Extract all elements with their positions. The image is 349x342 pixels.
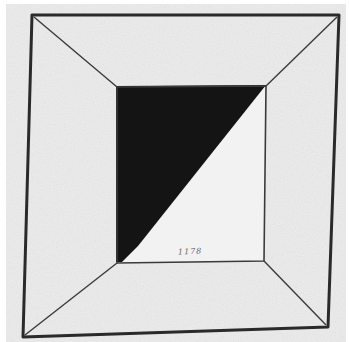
- pencil-drawing: [0, 0, 349, 342]
- pencil-inscription: 1178: [178, 247, 203, 257]
- drawing-canvas: 1178: [0, 0, 349, 342]
